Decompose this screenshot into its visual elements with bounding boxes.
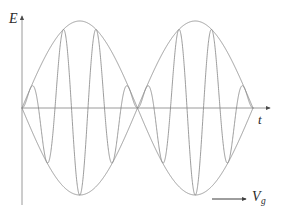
group-velocity-subscript: g [261,196,266,206]
y-axis-label: E [9,12,18,26]
envelope-lower-curve [22,108,253,195]
envelope-upper-curve [22,21,253,108]
x-axis-label: t [258,113,262,126]
wave-packet-figure: E t Vg [0,0,284,219]
wave-packet-plot [0,0,284,219]
group-velocity-label: Vg [252,190,265,204]
axes-group [22,16,270,205]
carrier-wave-curve [22,29,253,195]
group-velocity-symbol: V [252,189,261,204]
